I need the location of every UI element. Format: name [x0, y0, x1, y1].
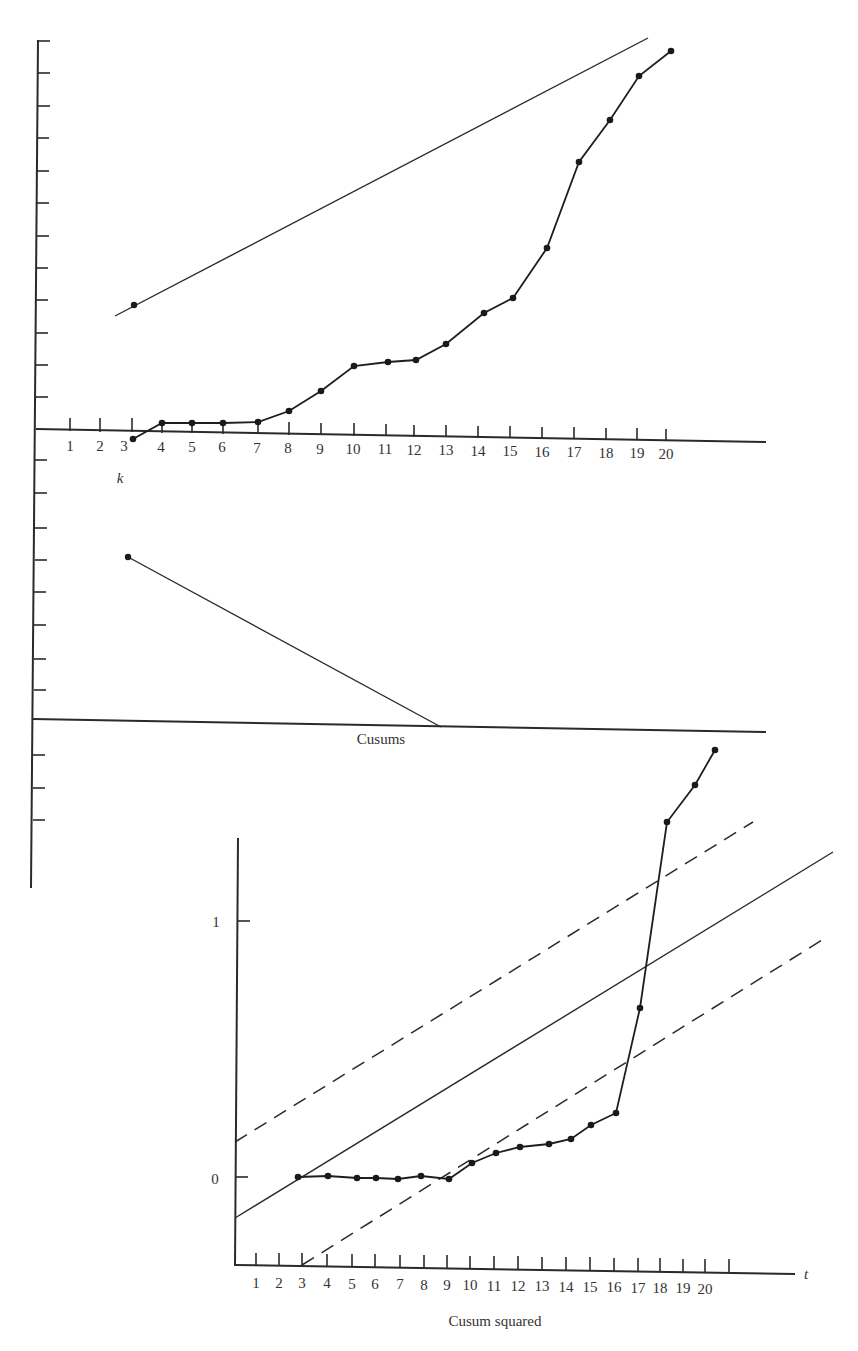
svg-text:16: 16	[535, 444, 551, 460]
cusum-squared-lower-bound-line	[302, 940, 822, 1265]
cusum-squared-expected-line	[235, 852, 833, 1218]
svg-text:8: 8	[420, 1277, 428, 1293]
svg-text:15: 15	[503, 443, 518, 459]
svg-text:9: 9	[443, 1277, 451, 1293]
cusum-squared-upper-bound-line	[235, 822, 753, 1142]
svg-text:20: 20	[659, 446, 674, 462]
cusum-squared-series-points	[295, 747, 719, 1183]
cusum-squared-caption: Cusum squared	[449, 1313, 542, 1329]
svg-text:17: 17	[567, 444, 583, 460]
svg-text:13: 13	[439, 442, 454, 458]
cusums-caption: Cusums	[357, 731, 406, 747]
cusum-squared-series-line	[298, 750, 715, 1179]
cusums-y-axis	[31, 40, 38, 888]
svg-text:5: 5	[348, 1276, 356, 1292]
svg-text:9: 9	[316, 441, 324, 457]
cusum-squared-x-axis	[235, 1265, 795, 1274]
cusums-series-points	[130, 48, 675, 443]
cusums-x-axis-label: k	[117, 470, 124, 486]
cusums-chart: 1 2 3 4 5 6 7 8 9 10 11 12 13 14 15 16 1…	[31, 38, 766, 888]
svg-text:14: 14	[471, 443, 487, 459]
svg-text:3: 3	[298, 1275, 306, 1291]
svg-text:10: 10	[463, 1277, 478, 1293]
cusum-squared-y-label-1: 1	[212, 914, 220, 930]
svg-text:15: 15	[583, 1279, 598, 1295]
svg-text:19: 19	[676, 1280, 691, 1296]
cusum-squared-y-axis	[235, 838, 238, 1266]
svg-text:12: 12	[511, 1278, 526, 1294]
cusums-x-axis	[36, 429, 766, 442]
svg-text:19: 19	[630, 445, 645, 461]
svg-text:18: 18	[653, 1280, 668, 1296]
cusum-squared-x-axis-label: t	[804, 1266, 809, 1282]
svg-text:6: 6	[218, 439, 226, 455]
svg-text:1: 1	[252, 1275, 260, 1291]
svg-text:7: 7	[396, 1276, 404, 1292]
svg-text:4: 4	[323, 1275, 331, 1291]
cusums-series-line	[133, 51, 671, 439]
cusums-upper-bound-line	[115, 38, 648, 316]
svg-text:14: 14	[559, 1279, 575, 1295]
svg-text:3: 3	[120, 438, 128, 454]
svg-text:13: 13	[535, 1278, 550, 1294]
cusum-squared-chart: 1 0 1 2	[211, 747, 833, 1329]
svg-text:5: 5	[188, 439, 196, 455]
cusums-x-tick-labels: 1 2 3 4 5 6 7 8 9 10 11 12 13 14 15 16 1…	[66, 438, 673, 462]
svg-text:20: 20	[698, 1281, 713, 1297]
cusum-squared-x-tick-labels: 1 2 3 4 5 6 7 8 9 10 11 12 13 14 15 16 1…	[252, 1275, 712, 1297]
cusums-lower-bound-start-point	[125, 554, 131, 560]
svg-text:6: 6	[371, 1276, 379, 1292]
cusum-squared-y-label-0: 0	[211, 1171, 219, 1187]
svg-text:8: 8	[284, 440, 292, 456]
svg-text:2: 2	[275, 1275, 283, 1291]
svg-text:12: 12	[407, 442, 422, 458]
svg-text:10: 10	[346, 441, 361, 457]
svg-text:4: 4	[157, 439, 165, 455]
svg-text:18: 18	[599, 445, 614, 461]
cusums-lower-bound-line	[128, 557, 441, 727]
svg-text:7: 7	[253, 440, 261, 456]
cusums-upper-bound-start-point	[131, 302, 137, 308]
svg-text:1: 1	[66, 438, 74, 454]
svg-text:16: 16	[607, 1279, 623, 1295]
figure: 1 2 3 4 5 6 7 8 9 10 11 12 13 14 15 16 1…	[0, 0, 858, 1351]
svg-text:11: 11	[378, 441, 392, 457]
svg-text:11: 11	[487, 1278, 501, 1294]
svg-text:17: 17	[631, 1280, 647, 1296]
svg-text:2: 2	[96, 438, 104, 454]
